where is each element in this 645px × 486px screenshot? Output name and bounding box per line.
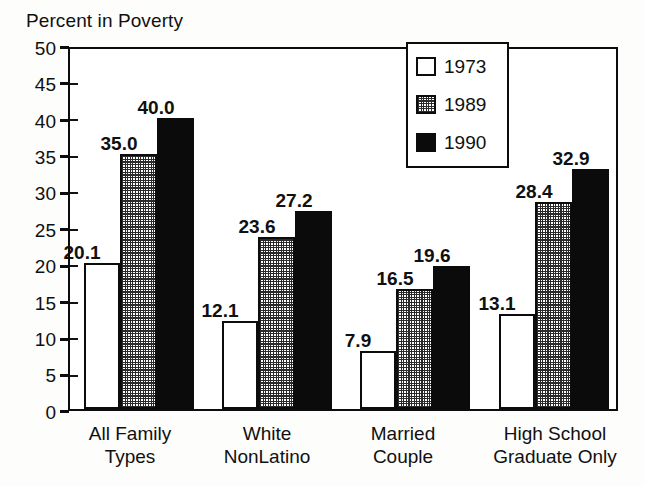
y-tick-label-40: 40 [16, 112, 56, 131]
bar-white-nonlatino-1973[interactable] [222, 321, 258, 409]
legend-swatch-1973-icon [416, 57, 436, 76]
bar-white-nonlatino-1990[interactable] [295, 211, 332, 409]
bar-all-family-types-1989[interactable] [120, 154, 157, 409]
x-category-line-2: Types [68, 445, 192, 468]
x-category-line-1: High School [472, 422, 638, 445]
y-inner-tick-10 [70, 338, 78, 340]
bar-value-white-nonlatino-1990: 27.2 [270, 191, 318, 210]
bar-value-high-school-graduate-only-1973: 13.1 [473, 294, 521, 313]
y-inner-tick-25 [70, 229, 78, 231]
y-tick-label-10: 10 [16, 330, 56, 349]
bar-married-couple-1990[interactable] [433, 266, 470, 409]
y-inner-tick-40 [70, 119, 78, 121]
legend-swatch-1990-icon [416, 133, 436, 152]
bar-high-school-graduate-only-1990[interactable] [572, 169, 609, 409]
y-inner-tick-30 [70, 192, 78, 194]
bar-value-all-family-types-1989: 35.0 [95, 134, 143, 153]
bar-value-high-school-graduate-only-1990: 32.9 [547, 149, 595, 168]
bar-all-family-types-1990[interactable] [157, 118, 194, 409]
legend-swatch-1989-icon [416, 95, 436, 114]
x-category-line-2: Couple [343, 445, 463, 468]
bar-all-family-types-1973[interactable] [84, 263, 120, 409]
y-tick-label-30: 30 [16, 184, 56, 203]
y-axis: 50 45 40 35 30 25 20 15 10 5 0 [10, 0, 56, 486]
bar-white-nonlatino-1989[interactable] [258, 237, 295, 409]
bar-high-school-graduate-only-1973[interactable] [499, 314, 535, 409]
y-inner-tick-35 [70, 156, 78, 158]
bar-value-married-couple-1973: 7.9 [334, 331, 382, 350]
x-category-label-all-family-types: All Family Types [68, 422, 192, 468]
bar-married-couple-1989[interactable] [396, 289, 433, 409]
y-tick-label-25: 25 [16, 221, 56, 240]
y-tick-label-20: 20 [16, 257, 56, 276]
x-category-line-1: All Family [68, 422, 192, 445]
y-inner-tick-20 [70, 265, 78, 267]
x-category-line-1: White [203, 422, 331, 445]
y-inner-tick-45 [70, 83, 78, 85]
x-category-label-white-nonlatino: White NonLatino [203, 422, 331, 468]
bar-value-white-nonlatino-1989: 23.6 [233, 217, 281, 236]
y-tick-label-0: 0 [16, 403, 56, 422]
bar-value-married-couple-1990: 19.6 [408, 246, 456, 265]
bar-value-married-couple-1989: 16.5 [371, 269, 419, 288]
y-tick-label-35: 35 [16, 148, 56, 167]
legend-label-1990: 1990 [444, 132, 486, 153]
bar-value-white-nonlatino-1973: 12.1 [196, 301, 244, 320]
bar-value-all-family-types-1990: 40.0 [132, 98, 180, 117]
y-tick-label-50: 50 [16, 39, 56, 58]
y-inner-tick-5 [70, 375, 78, 377]
y-inner-tick-15 [70, 302, 78, 304]
bar-high-school-graduate-only-1989[interactable] [535, 202, 572, 409]
bar-value-all-family-types-1973: 20.1 [58, 243, 106, 262]
x-category-line-1: Married [343, 422, 463, 445]
legend-label-1989: 1989 [444, 94, 486, 115]
x-category-label-high-school-graduate-only: High School Graduate Only [472, 422, 638, 468]
x-category-line-2: Graduate Only [472, 445, 638, 468]
x-category-label-married-couple: Married Couple [343, 422, 463, 468]
x-category-line-2: NonLatino [203, 445, 331, 468]
bar-value-high-school-graduate-only-1989: 28.4 [510, 182, 558, 201]
y-tick-label-45: 45 [16, 75, 56, 94]
bar-married-couple-1973[interactable] [360, 351, 396, 409]
chart-figure: Percent in Poverty 50 45 40 35 30 25 20 … [0, 0, 645, 486]
y-tick-label-5: 5 [16, 366, 56, 385]
legend-label-1973: 1973 [444, 56, 486, 77]
legend: 1973 1989 1990 [406, 42, 509, 168]
y-tick-label-15: 15 [16, 294, 56, 313]
